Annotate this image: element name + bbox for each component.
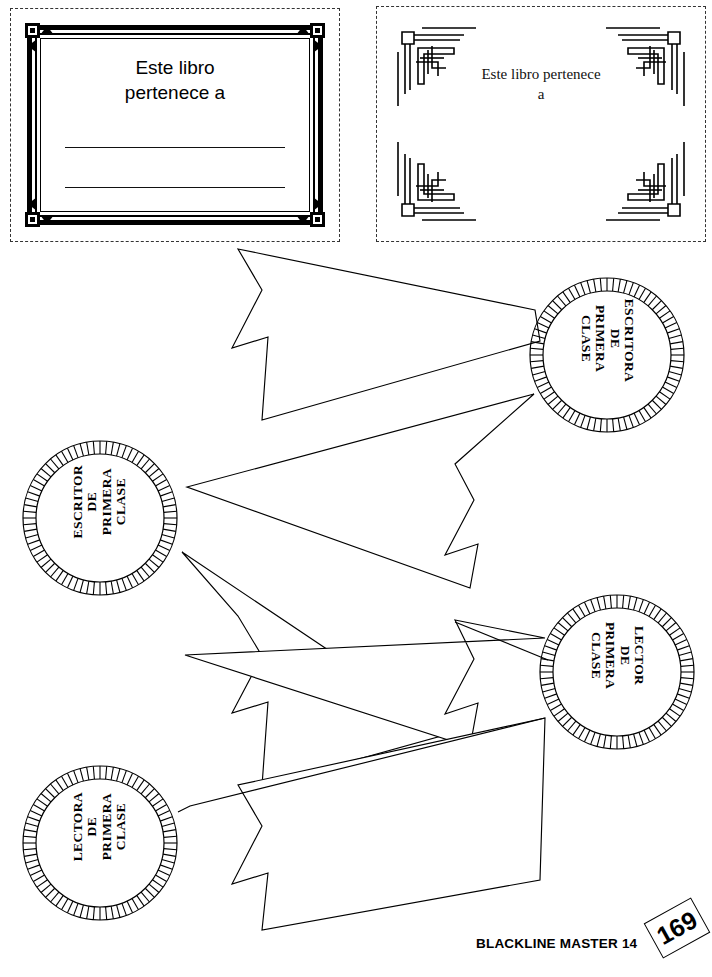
corner-arrow-icon bbox=[28, 39, 37, 53]
corner-square-icon bbox=[310, 23, 325, 38]
bookplate-ornate-inner: Este libro pertenece a bbox=[43, 41, 307, 209]
corner-arrow-icon bbox=[296, 215, 310, 224]
name-write-line[interactable] bbox=[65, 147, 285, 148]
corner-square-icon bbox=[310, 212, 325, 227]
corner-square-icon bbox=[25, 23, 40, 38]
seal-label-escritora: ESCRITORA DE PRIMERA CLASE bbox=[578, 299, 635, 379]
name-write-line[interactable] bbox=[65, 187, 285, 188]
seal-label-escritor: ESCRITOR DE PRIMERA CLASE bbox=[71, 462, 128, 542]
bookplate-artdeco-title: Este libro pertenece a bbox=[386, 64, 696, 104]
worksheet-page: Este libro pertenece a Este libro perten… bbox=[0, 0, 712, 977]
corner-arrow-icon bbox=[313, 39, 322, 53]
corner-arrow-icon bbox=[40, 26, 54, 35]
corner-arrow-icon bbox=[40, 215, 54, 224]
corner-square-icon bbox=[25, 212, 40, 227]
corner-arrow-icon bbox=[28, 197, 37, 211]
seal-label-lector: LECTOR DE PRIMERA CLASE bbox=[588, 616, 645, 696]
bookplate-artdeco-cutline bbox=[376, 6, 706, 242]
corner-arrow-icon bbox=[313, 197, 322, 211]
corner-arrow-icon bbox=[296, 26, 310, 35]
bookplate-ornate-title: Este libro pertenece a bbox=[43, 55, 307, 105]
bookplate-ornate-frame: Este libro pertenece a bbox=[27, 25, 323, 225]
seal-label-lectora: LECTORA DE PRIMERA CLASE bbox=[71, 787, 128, 867]
blackline-master-label: BLACKLINE MASTER 14 bbox=[476, 936, 637, 951]
